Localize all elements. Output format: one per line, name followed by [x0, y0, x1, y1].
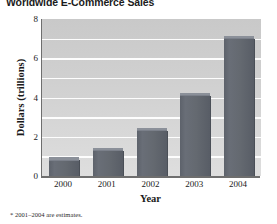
chart-footnote: * 2001–2004 are estimates.	[10, 211, 82, 218]
bar-2003	[180, 19, 210, 176]
x-axis-title: Year	[41, 193, 260, 204]
plot-area	[41, 19, 261, 176]
x-tick-label: 2000	[41, 179, 85, 189]
bar-top-face	[49, 157, 79, 161]
bar-body	[137, 131, 168, 176]
bar-top-face	[180, 93, 210, 97]
bar-top-face	[224, 36, 254, 40]
bar-2002	[137, 19, 167, 176]
chart-title: Worldwide E-Commerce Sales	[6, 0, 246, 8]
bar-2001	[93, 19, 123, 176]
bar-2000	[49, 19, 79, 176]
y-tick-label: 8	[24, 15, 38, 24]
bar-chart-figure: Worldwide E-Commerce Sales Dollars (tril…	[0, 0, 277, 224]
x-tick-label: 2003	[172, 179, 216, 189]
x-tick-label: 2002	[129, 179, 173, 189]
y-axis-tick-labels: 02468	[22, 0, 38, 224]
bar-body	[49, 160, 80, 176]
bar-series	[42, 19, 261, 176]
bar-body	[93, 151, 124, 177]
bar-body	[180, 96, 211, 176]
bar-2004	[224, 19, 254, 176]
y-tick-label: 0	[24, 172, 38, 181]
y-tick-label: 6	[24, 54, 38, 63]
y-tick-label: 2	[24, 132, 38, 141]
x-tick-label: 2004	[216, 179, 260, 189]
x-axis-line	[41, 176, 260, 178]
x-axis-tick-labels: 20002001200220032004	[41, 179, 260, 193]
bar-top-face	[137, 128, 167, 132]
x-tick-label: 2001	[85, 179, 129, 189]
bar-top-face	[93, 148, 123, 152]
y-tick-label: 4	[24, 93, 38, 102]
bar-body	[224, 39, 255, 176]
